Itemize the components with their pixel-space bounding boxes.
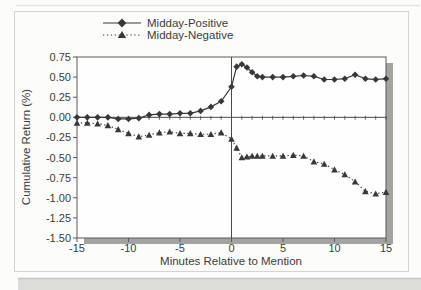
x-tick-label: 5 [280, 242, 286, 254]
scan-bottom-strip [18, 278, 421, 290]
y-tick-label: -0.50 [46, 152, 71, 164]
x-tick-label: 10 [328, 242, 340, 254]
y-tick-label: -0.75 [46, 172, 71, 184]
y-tick-label: -1.50 [46, 232, 71, 244]
y-tick-label: -0.25 [46, 131, 71, 143]
cumulative-return-chart: -15-10-50510150.750.500.250.00-0.25-0.50… [0, 0, 421, 290]
y-tick-label: -1.00 [46, 192, 71, 204]
y-tick-label: 0.50 [50, 71, 71, 83]
x-axis-title: Minutes Relative to Mention [160, 255, 302, 267]
y-axis-title: Cumulative Return (%) [20, 89, 32, 205]
y-tick-label: 0.00 [50, 111, 71, 123]
x-tick-label: -10 [121, 242, 137, 254]
y-tick-label: -1.25 [46, 212, 71, 224]
x-tick-label: 0 [228, 242, 234, 254]
y-tick-label: 0.75 [50, 51, 71, 63]
x-tick-label: -15 [69, 242, 85, 254]
x-tick-label: -5 [175, 242, 185, 254]
plot-area: -15-10-50510150.750.500.250.00-0.25-0.50… [46, 51, 393, 254]
legend-positive-diamond-icon [118, 19, 127, 28]
y-tick-label: 0.25 [50, 91, 71, 103]
legend-negative-label: Midday-Negative [147, 29, 233, 41]
legend-positive-label: Midday-Positive [147, 17, 228, 29]
legend: Midday-Positive Midday-Negative [103, 17, 233, 41]
x-tick-label: 15 [380, 242, 392, 254]
